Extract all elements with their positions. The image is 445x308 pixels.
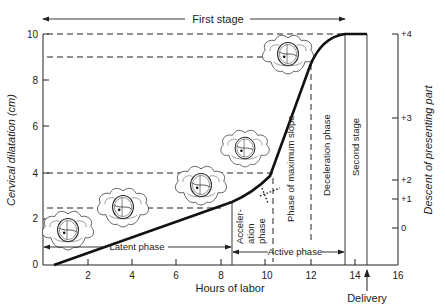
svg-text:14: 14 bbox=[349, 270, 361, 281]
svg-text:+1: +1 bbox=[401, 193, 412, 204]
acceleration-phase-label: Acceler- ation phase bbox=[234, 209, 267, 244]
svg-text:10: 10 bbox=[27, 29, 39, 40]
y-axis-right-ticks: 0 +1 +2 +3 +4 bbox=[401, 28, 412, 233]
active-phase-span: Active phase bbox=[233, 246, 344, 257]
svg-text:Acceler-: Acceler- bbox=[234, 209, 245, 244]
y-axis-left-label: Cervical dilatation (cm) bbox=[5, 94, 17, 206]
svg-text:10: 10 bbox=[261, 270, 273, 281]
x-axis-label: Hours of labor bbox=[195, 282, 264, 294]
y-axis-right-label: Descent of presenting part bbox=[422, 85, 434, 215]
svg-text:16: 16 bbox=[392, 270, 404, 281]
svg-text:6: 6 bbox=[173, 270, 179, 281]
y-axis-right bbox=[392, 34, 398, 265]
svg-text:+4: +4 bbox=[401, 28, 412, 39]
pelvis-illustration-icon bbox=[42, 35, 313, 250]
max-slope-phase-label: Phase of maximum slope bbox=[285, 115, 296, 222]
svg-text:+3: +3 bbox=[401, 112, 412, 123]
svg-text:6: 6 bbox=[32, 121, 38, 132]
first-stage-span: First stage bbox=[43, 13, 345, 25]
svg-text:12: 12 bbox=[305, 270, 317, 281]
svg-text:2: 2 bbox=[32, 213, 38, 224]
latent-phase-label: Latent phase bbox=[110, 241, 165, 252]
svg-text:8: 8 bbox=[32, 75, 38, 86]
svg-text:2: 2 bbox=[85, 270, 91, 281]
svg-text:+2: +2 bbox=[401, 174, 412, 185]
svg-text:4: 4 bbox=[32, 168, 38, 179]
svg-text:phase: phase bbox=[256, 218, 267, 244]
svg-text:4: 4 bbox=[129, 270, 135, 281]
svg-text:0: 0 bbox=[401, 222, 406, 233]
svg-text:ation: ation bbox=[245, 223, 256, 244]
labor-curve-chart: First stage 0 2 4 6 8 10 Cervical dilata… bbox=[0, 0, 445, 308]
delivery-label: Delivery bbox=[347, 292, 387, 304]
inflection-marker bbox=[260, 188, 280, 203]
active-phase-label: Active phase bbox=[268, 246, 322, 257]
x-axis-ticks: 2 4 6 8 10 12 14 16 bbox=[85, 270, 404, 281]
svg-text:8: 8 bbox=[218, 270, 224, 281]
svg-text:0: 0 bbox=[32, 259, 38, 270]
deceleration-phase-label: Deceleration phase bbox=[321, 114, 332, 196]
first-stage-label: First stage bbox=[192, 13, 243, 25]
y-axis-left-ticks: 0 2 4 6 8 10 bbox=[27, 29, 39, 270]
second-stage-label: Second stage bbox=[350, 118, 361, 176]
